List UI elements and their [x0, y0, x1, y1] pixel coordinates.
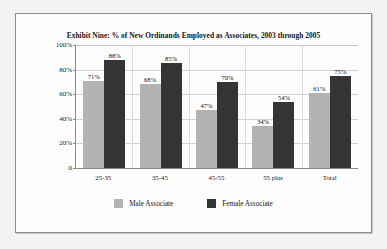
- bar-group-total: 61%75%: [302, 45, 358, 168]
- bar-group-55-plus: 34%54%: [245, 45, 301, 168]
- bar-female-35-45[interactable]: 85%: [161, 63, 182, 168]
- bar-value-label: 71%: [88, 73, 100, 80]
- legend-label: Female Associate: [222, 200, 273, 208]
- bar-group-45-55: 47%70%: [189, 45, 245, 168]
- bar-value-label: 47%: [200, 102, 212, 109]
- bar-value-label: 61%: [313, 85, 325, 92]
- x-axis-tick-label: Total: [301, 171, 358, 185]
- x-axis-tick-label: 45-55: [188, 171, 245, 185]
- bar-female-45-55[interactable]: 70%: [217, 82, 238, 168]
- bar-group-25-35: 71%88%: [76, 45, 132, 168]
- bar-value-label: 34%: [257, 118, 269, 125]
- figure-frame: Exhibit Nine: % of New Ordinands Employe…: [15, 13, 372, 233]
- y-axis-tick-label: 20%: [59, 139, 72, 147]
- bar-male-45-55[interactable]: 47%: [196, 110, 217, 168]
- bar-value-label: 68%: [144, 76, 156, 83]
- legend-item-female[interactable]: Female Associate: [207, 199, 273, 208]
- bars-layer: 71%88%68%85%47%70%34%54%61%75%: [76, 45, 358, 168]
- y-axis-tick-label: 60%: [59, 90, 72, 98]
- y-axis-tick-label: 80%: [59, 66, 72, 74]
- x-axis-tick-label: 25-35: [75, 171, 132, 185]
- bar-male-total[interactable]: 61%: [309, 93, 330, 168]
- bar-male-35-45[interactable]: 68%: [140, 84, 161, 168]
- bar-group-35-45: 68%85%: [132, 45, 188, 168]
- plot-wrapper: 020%40%60%80%100% 71%88%68%85%47%70%34%5…: [42, 45, 360, 185]
- y-axis-tick-mark: [73, 168, 76, 169]
- bar-female-25-35[interactable]: 88%: [104, 60, 125, 168]
- bar-value-label: 54%: [278, 94, 290, 101]
- bar-male-25-35[interactable]: 71%: [83, 81, 104, 168]
- x-axis-tick-label: 55 plus: [245, 171, 302, 185]
- legend-swatch-icon: [207, 199, 216, 208]
- bar-value-label: 88%: [109, 52, 121, 59]
- legend-item-male[interactable]: Male Associate: [114, 199, 173, 208]
- bar-female-total[interactable]: 75%: [330, 76, 351, 168]
- x-axis-labels: 25-3535-4545-5555 plusTotal: [75, 171, 358, 185]
- bar-male-55-plus[interactable]: 34%: [252, 126, 273, 168]
- legend-swatch-icon: [114, 199, 123, 208]
- plot-area: 020%40%60%80%100% 71%88%68%85%47%70%34%5…: [75, 45, 358, 169]
- bar-value-label: 75%: [334, 68, 346, 75]
- chart-title: Exhibit Nine: % of New Ordinands Employe…: [16, 31, 371, 40]
- y-axis-tick-label: 40%: [59, 115, 72, 123]
- chart-legend: Male AssociateFemale Associate: [16, 199, 371, 208]
- x-axis-tick-label: 35-45: [132, 171, 189, 185]
- bar-value-label: 85%: [165, 55, 177, 62]
- y-axis-tick-label: 100%: [56, 41, 72, 49]
- bar-value-label: 70%: [221, 74, 233, 81]
- bar-female-55-plus[interactable]: 54%: [273, 102, 294, 168]
- legend-label: Male Associate: [129, 200, 173, 208]
- y-axis-tick-label: 0: [69, 164, 73, 172]
